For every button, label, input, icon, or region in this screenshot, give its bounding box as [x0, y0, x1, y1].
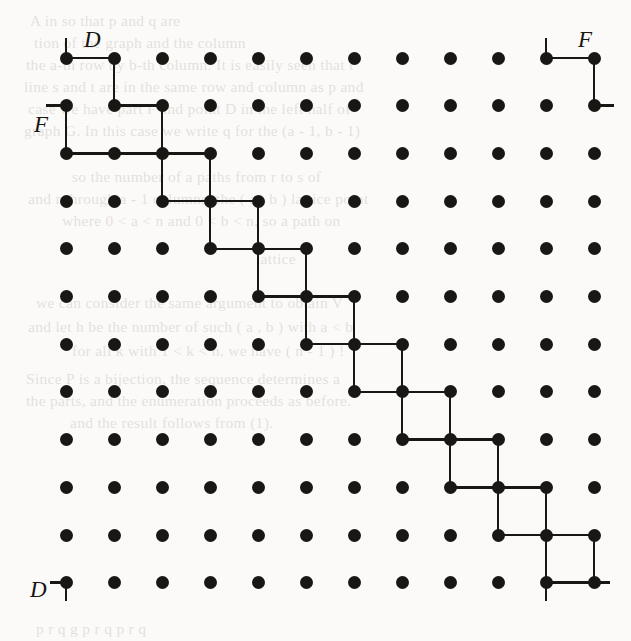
lattice-point	[540, 290, 553, 303]
label-D-bottom-left: D	[30, 578, 47, 601]
lattice-point	[444, 338, 457, 351]
lattice-point	[300, 385, 313, 398]
lattice-point	[444, 147, 457, 160]
lattice-point	[348, 290, 361, 303]
lattice-point	[444, 385, 457, 398]
lattice-point	[156, 433, 169, 446]
lattice-point	[492, 385, 505, 398]
lattice-point	[156, 242, 169, 255]
lattice-point	[492, 529, 505, 542]
lattice-point	[204, 338, 217, 351]
lattice-point	[300, 147, 313, 160]
lattice-point	[492, 99, 505, 112]
lattice-edge	[498, 534, 546, 537]
lattice-point	[348, 99, 361, 112]
lattice-point	[348, 433, 361, 446]
lattice-point	[540, 242, 553, 255]
lattice-edge	[306, 343, 354, 346]
lattice-edge	[66, 57, 114, 60]
lattice-point	[156, 576, 169, 589]
lattice-point	[60, 338, 73, 351]
lattice-point	[588, 385, 601, 398]
lattice-point	[348, 147, 361, 160]
lattice-point	[396, 433, 409, 446]
lattice-point	[60, 576, 73, 589]
lattice-point	[300, 338, 313, 351]
lattice-edge	[210, 200, 258, 203]
lattice-point	[540, 195, 553, 208]
lattice-point	[588, 576, 601, 589]
lattice-point	[204, 576, 217, 589]
lattice-point	[252, 290, 265, 303]
lattice-edge	[306, 295, 354, 298]
lattice-point	[492, 195, 505, 208]
lattice-point	[540, 338, 553, 351]
lattice-point	[252, 99, 265, 112]
lattice-edge	[258, 295, 306, 298]
lattice-point	[108, 242, 121, 255]
lattice-edge	[402, 391, 450, 394]
lattice-point	[252, 195, 265, 208]
lattice-point	[348, 52, 361, 65]
lattice-point	[60, 529, 73, 542]
lattice-point	[444, 433, 457, 446]
lattice-edge	[545, 487, 548, 535]
lattice-edge	[210, 248, 258, 251]
lattice-point	[60, 52, 73, 65]
lattice-grid	[0, 0, 631, 641]
lattice-point	[108, 290, 121, 303]
lattice-point	[252, 576, 265, 589]
lattice-point	[156, 195, 169, 208]
lattice-point	[204, 290, 217, 303]
lattice-point	[396, 481, 409, 494]
lattice-point	[60, 147, 73, 160]
lattice-point	[396, 338, 409, 351]
lattice-point	[540, 147, 553, 160]
lattice-point	[588, 290, 601, 303]
lattice-point	[108, 433, 121, 446]
lattice-point	[396, 385, 409, 398]
lattice-point	[60, 433, 73, 446]
lattice-point	[396, 99, 409, 112]
lattice-point	[348, 385, 361, 398]
lattice-point	[108, 195, 121, 208]
lattice-point	[108, 99, 121, 112]
lattice-point	[444, 52, 457, 65]
lattice-edge	[161, 153, 164, 201]
lattice-point	[300, 195, 313, 208]
lattice-edge	[66, 152, 114, 155]
lattice-point	[588, 481, 601, 494]
lattice-point	[540, 529, 553, 542]
lattice-point	[588, 529, 601, 542]
lattice-point	[492, 290, 505, 303]
lattice-point	[540, 433, 553, 446]
lattice-point	[588, 147, 601, 160]
lattice-point	[444, 195, 457, 208]
label-F-left: F	[34, 113, 48, 136]
lattice-edge	[402, 438, 450, 441]
lattice-point	[492, 481, 505, 494]
lattice-point	[396, 576, 409, 589]
lattice-point	[588, 433, 601, 446]
lattice-point	[156, 290, 169, 303]
lattice-point	[492, 433, 505, 446]
lattice-point	[204, 195, 217, 208]
lattice-point	[396, 52, 409, 65]
lattice-point	[300, 52, 313, 65]
lattice-edge	[162, 152, 210, 155]
lattice-edge	[162, 200, 210, 203]
lattice-point	[444, 481, 457, 494]
lattice-edge	[114, 152, 162, 155]
lattice-point	[588, 99, 601, 112]
lattice-point	[588, 242, 601, 255]
lattice-point	[300, 242, 313, 255]
lattice-point	[252, 338, 265, 351]
lattice-edge	[546, 534, 594, 537]
lattice-point	[540, 385, 553, 398]
lattice-point	[348, 195, 361, 208]
lattice-edge	[450, 486, 498, 489]
lattice-point	[252, 481, 265, 494]
lattice-point	[204, 99, 217, 112]
lattice-point	[300, 433, 313, 446]
lattice-point	[60, 385, 73, 398]
